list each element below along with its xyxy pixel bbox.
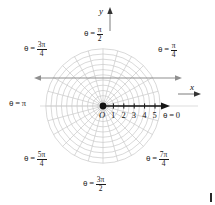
theta-symbol: θ (84, 29, 89, 38)
x-axis-arrow (178, 91, 201, 96)
angle-label-theta-7pi-4: θ=7π4 (146, 151, 169, 168)
fraction: 7π4 (159, 151, 169, 168)
fraction: π4 (171, 42, 177, 59)
tick-label-5: 5 (153, 110, 157, 120)
equals-symbol: = (163, 44, 171, 54)
angle-label-theta-5pi-4: θ=5π4 (24, 151, 47, 168)
tick-label-4: 4 (142, 110, 146, 120)
angle-value: 0 (176, 110, 180, 120)
angle-label-theta-3pi-2: θ=3π2 (83, 176, 106, 193)
theta-symbol: θ (24, 44, 29, 53)
fraction-denominator: 4 (37, 160, 47, 168)
theta-symbol: θ (146, 154, 151, 163)
theta-symbol: θ (158, 45, 163, 54)
theta-symbol: θ (163, 111, 168, 120)
polar-grid-figure (0, 0, 215, 205)
corner-mark (210, 193, 212, 202)
tick-label-origin: O (99, 110, 105, 120)
angle-label-theta-pi: θ=π (9, 99, 26, 108)
equals-symbol: = (168, 110, 176, 120)
angle-value: π (22, 98, 27, 108)
fraction-denominator: 2 (97, 35, 103, 43)
angle-label-theta-3pi-4: θ=3π4 (24, 41, 47, 58)
equals-symbol: = (29, 153, 37, 163)
angle-label-theta-pi-2: θ=π2 (84, 26, 103, 43)
equals-symbol: = (151, 153, 159, 163)
tick-label-1: 1 (111, 110, 115, 120)
tick-label-2: 2 (121, 110, 125, 120)
angle-label-theta-0: θ=0 (163, 111, 180, 120)
fraction: π2 (97, 26, 103, 43)
y-axis-arrow (107, 7, 112, 31)
fraction-denominator: 2 (96, 185, 106, 193)
equals-symbol: = (29, 43, 37, 53)
theta-symbol: θ (83, 179, 88, 188)
fraction: 3π2 (96, 176, 106, 193)
fraction: 5π4 (37, 151, 47, 168)
theta-symbol: θ (9, 99, 14, 108)
fraction-denominator: 4 (159, 160, 169, 168)
equals-symbol: = (88, 178, 96, 188)
origin-point (100, 103, 107, 110)
horizontal-gray-double-arrow (34, 75, 182, 81)
y-axis-label: y (99, 6, 103, 16)
theta-symbol: θ (24, 154, 29, 163)
x-axis-label: x (190, 82, 194, 92)
fraction-denominator: 4 (37, 50, 47, 58)
fraction-denominator: 4 (171, 51, 177, 59)
equals-symbol: = (14, 98, 22, 108)
tick-label-3: 3 (132, 110, 136, 120)
angle-label-theta-pi-4: θ=π4 (158, 42, 177, 59)
equals-symbol: = (89, 28, 97, 38)
fraction: 3π4 (37, 41, 47, 58)
